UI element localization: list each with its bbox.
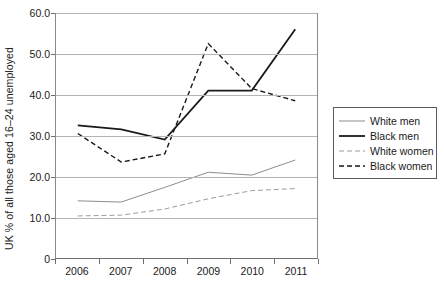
x-axis-tick-mark bbox=[55, 259, 56, 264]
y-axis-tick-label: 30.0 bbox=[2, 130, 50, 142]
series-line-white-men bbox=[78, 160, 295, 202]
x-axis-tick-mark bbox=[274, 259, 275, 264]
legend-swatch-white-women bbox=[338, 145, 366, 157]
series-line-black-men bbox=[78, 29, 295, 139]
x-axis-tick-mark bbox=[318, 259, 319, 264]
legend-item[interactable]: White women bbox=[338, 143, 431, 158]
legend-label: White men bbox=[366, 115, 420, 127]
x-axis-tick-mark bbox=[187, 259, 188, 264]
x-axis-ticks: 200620072008200920102011 bbox=[55, 259, 318, 289]
x-axis-tick-mark bbox=[99, 259, 100, 264]
series-line-black-women bbox=[78, 44, 295, 162]
plot-area bbox=[55, 13, 318, 259]
chart-figure: UK % of all those aged 16–24 unemployed … bbox=[0, 0, 444, 297]
chart-legend: White menBlack menWhite womenBlack women bbox=[333, 107, 437, 179]
y-axis-tick-label: 20.0 bbox=[2, 171, 50, 183]
gridline bbox=[56, 136, 317, 137]
gridline bbox=[56, 177, 317, 178]
legend-item[interactable]: White men bbox=[338, 113, 431, 128]
legend-swatch-black-men bbox=[338, 130, 366, 142]
legend-label: Black men bbox=[366, 130, 419, 142]
x-axis-tick-mark bbox=[230, 259, 231, 264]
y-axis-tick-label: 60.0 bbox=[2, 7, 50, 19]
y-axis-tick-label: 40.0 bbox=[2, 89, 50, 101]
y-axis-tick-label: 50.0 bbox=[2, 48, 50, 60]
legend-item[interactable]: Black women bbox=[338, 158, 431, 173]
legend-label: Black women bbox=[366, 160, 432, 172]
gridline bbox=[56, 218, 317, 219]
y-axis-tick-label: 10.0 bbox=[2, 212, 50, 224]
legend-label: White women bbox=[366, 145, 434, 157]
x-axis-tick-mark bbox=[143, 259, 144, 264]
gridline bbox=[56, 95, 317, 96]
legend-swatch-white-men bbox=[338, 115, 366, 127]
legend-item[interactable]: Black men bbox=[338, 128, 431, 143]
series-line-white-women bbox=[78, 189, 295, 216]
y-axis-tick-label: 0 bbox=[2, 253, 50, 265]
gridline bbox=[56, 54, 317, 55]
gridline bbox=[56, 13, 317, 14]
y-axis-ticks: 010.020.030.040.050.060.0 bbox=[0, 13, 50, 259]
legend-swatch-black-women bbox=[338, 160, 366, 172]
x-axis-tick-label: 2011 bbox=[266, 265, 326, 277]
